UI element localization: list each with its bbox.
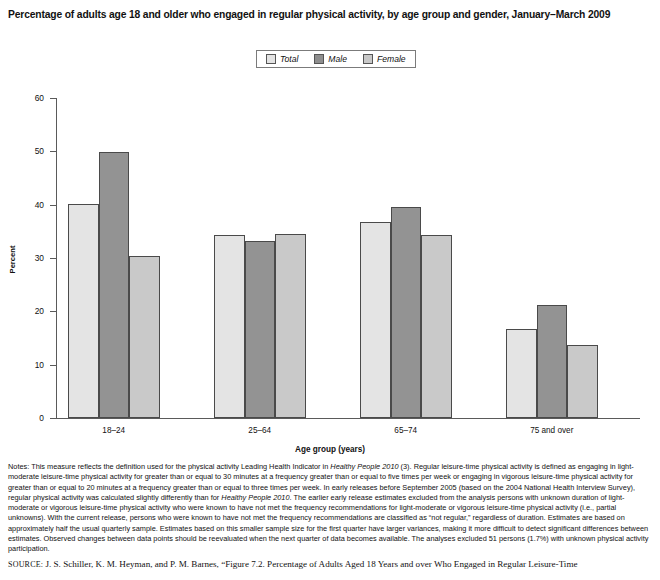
y-axis-tick-30 <box>50 258 56 259</box>
y-axis-tick-label-20: 20 <box>8 306 44 316</box>
bar-total-4[interactable] <box>506 329 537 418</box>
bar-female-4[interactable] <box>567 345 598 418</box>
y-axis-tick-40 <box>50 205 56 206</box>
x-axis-tick-label-2: 25–64 <box>210 426 310 435</box>
figure-notes: Notes: This measure reflects the definit… <box>8 462 654 555</box>
y-axis-tick-50 <box>50 151 56 152</box>
figure-source: SOURCE: J. S. Schiller, K. M. Heyman, an… <box>8 558 654 571</box>
y-axis-tick-label-0: 0 <box>8 413 44 423</box>
x-axis-tick-label-3: 65–74 <box>356 426 456 435</box>
bar-chart-plot-area: Percent 0102030405060 18–2425–6465–7475 … <box>0 0 660 460</box>
x-axis-title: Age group (years) <box>0 445 660 454</box>
y-axis-tick-20 <box>50 311 56 312</box>
bar-female-3[interactable] <box>421 235 452 418</box>
y-axis-tick-label-10: 10 <box>8 360 44 370</box>
x-axis-tick-label-4: 75 and over <box>502 426 602 435</box>
bar-female-2[interactable] <box>275 234 306 418</box>
bar-male-1[interactable] <box>99 152 130 418</box>
y-axis-line <box>56 98 57 419</box>
figure-page: Percentage of adults age 18 and older wh… <box>0 0 660 580</box>
y-axis-tick-10 <box>50 365 56 366</box>
x-axis-line <box>56 418 640 419</box>
bar-female-1[interactable] <box>129 256 160 418</box>
y-axis-tick-label-50: 50 <box>8 146 44 156</box>
bar-male-4[interactable] <box>537 305 568 418</box>
bar-total-3[interactable] <box>360 222 391 418</box>
notes-italic-2: Healthy People 2010 <box>221 493 289 502</box>
y-axis-tick-label-30: 30 <box>8 253 44 263</box>
bar-male-2[interactable] <box>245 241 276 418</box>
y-axis-tick-label-40: 40 <box>8 200 44 210</box>
bar-male-3[interactable] <box>391 207 422 418</box>
bar-total-1[interactable] <box>68 204 99 418</box>
notes-italic-1: Healthy People 2010 <box>330 462 398 471</box>
notes-lead: Notes: <box>8 462 29 471</box>
x-axis-tick-label-1: 18–24 <box>64 426 164 435</box>
source-label: SOURCE: <box>8 560 43 569</box>
y-axis-tick-0 <box>50 418 56 419</box>
y-axis-tick-60 <box>50 98 56 99</box>
y-axis-tick-label-60: 60 <box>8 93 44 103</box>
notes-text-1: This measure reflects the definition use… <box>29 462 330 471</box>
source-text: J. S. Schiller, K. M. Heyman, and P. M. … <box>43 559 577 569</box>
bar-total-2[interactable] <box>214 235 245 418</box>
